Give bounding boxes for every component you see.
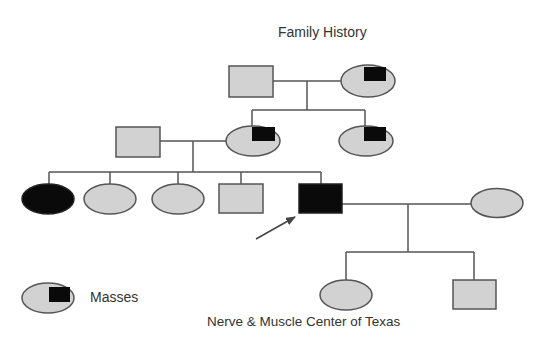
g2-daughter-1-female-symbol bbox=[226, 126, 280, 156]
g3-daughter-3-female-symbol bbox=[152, 184, 204, 214]
mass-marker-icon bbox=[364, 67, 386, 81]
connector-lines bbox=[49, 81, 474, 281]
mass-marker-icon bbox=[49, 287, 70, 302]
generation-3 bbox=[22, 184, 523, 239]
legend-symbol bbox=[22, 283, 74, 313]
g3-daughter-2-female-symbol bbox=[84, 184, 136, 214]
generation-2 bbox=[116, 126, 393, 157]
g2-daughter-2-female-symbol bbox=[339, 126, 393, 156]
g1-father-male-symbol bbox=[229, 66, 273, 97]
g1-mother-female-symbol bbox=[341, 65, 395, 97]
g3-son-1-male-symbol bbox=[219, 184, 263, 213]
g3-daughter-1-affected-female-symbol bbox=[22, 184, 74, 214]
proband-arrow-icon bbox=[256, 217, 295, 239]
source-credit: Nerve & Muscle Center of Texas bbox=[207, 314, 400, 329]
generation-4 bbox=[320, 280, 496, 310]
diagram-title: Family History bbox=[278, 24, 367, 40]
g3-proband-spouse-female-symbol bbox=[471, 189, 523, 218]
pedigree-diagram bbox=[0, 0, 547, 347]
mass-marker-icon bbox=[252, 127, 275, 141]
legend-label: Masses bbox=[90, 289, 138, 305]
g2-husband-male-symbol bbox=[116, 127, 160, 157]
g4-son-male-symbol bbox=[453, 280, 496, 309]
g3-proband-affected-male-symbol bbox=[299, 184, 342, 213]
g4-daughter-female-symbol bbox=[320, 280, 372, 310]
mass-marker-icon bbox=[364, 127, 386, 141]
